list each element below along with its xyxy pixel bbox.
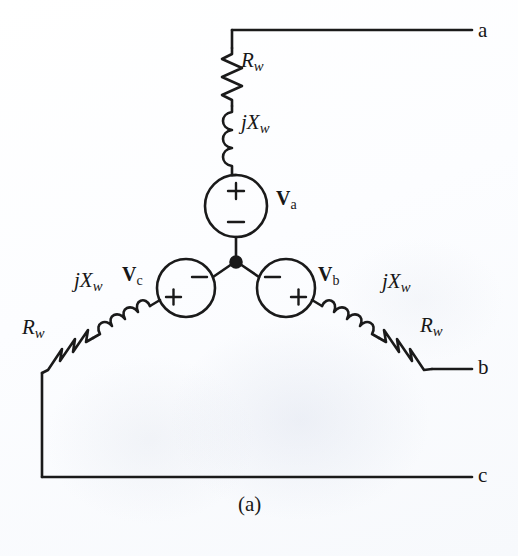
neutral-node-dot	[231, 257, 242, 268]
component-label-Rw-b: Rw	[420, 315, 443, 339]
component-label-jXw-b: jXw	[382, 271, 410, 295]
jXw-c-main: X	[80, 268, 93, 292]
resistor-Rw-a	[222, 48, 242, 106]
Va-main: V	[276, 187, 290, 209]
component-label-jXw-c: jXw	[74, 270, 102, 294]
component-label-Rw-c: Rw	[22, 317, 45, 341]
jXw-b-main: X	[388, 269, 401, 293]
component-label-Rw-a: Rw	[241, 50, 264, 74]
source-label-Vc: Vc	[122, 264, 143, 288]
Vc-main: V	[122, 263, 136, 285]
jXw-a-sub: w	[260, 120, 270, 136]
Va-sub: a	[290, 197, 296, 212]
Vb-main: V	[318, 263, 332, 285]
Rw-b-sub: w	[433, 323, 443, 339]
Rw-a-sub: w	[254, 58, 264, 74]
circuit-figure: a b c Rw jXw jXw Rw jXw Rw Va Vc Vb (a)	[0, 0, 518, 556]
Vb-sub: b	[332, 273, 339, 288]
jXw-b-sub: w	[401, 279, 411, 295]
wire-Vc-to-inductor	[150, 300, 160, 306]
Vc-sub: c	[136, 273, 142, 288]
terminal-label-c: c	[478, 465, 487, 486]
component-label-jXw-a: jXw	[241, 112, 269, 136]
figure-caption: (a)	[238, 494, 261, 515]
wire-node-to-Vc	[213, 264, 232, 277]
source-label-Va: Va	[276, 188, 297, 212]
inductor-jXw-a	[223, 106, 232, 175]
source-Vc-circle	[157, 259, 215, 317]
Rw-c-main: R	[22, 315, 35, 339]
Rw-c-sub: w	[35, 325, 45, 341]
wire-Vb-to-inductor	[312, 300, 322, 306]
inductor-jXw-b	[322, 300, 379, 338]
Rw-a-main: R	[241, 48, 254, 72]
source-label-Vb: Vb	[318, 264, 339, 288]
jXw-a-main: X	[247, 110, 260, 134]
terminal-label-a: a	[478, 20, 487, 41]
resistor-Rw-c	[42, 330, 93, 373]
Rw-b-main: R	[420, 313, 433, 337]
jXw-c-sub: w	[93, 278, 103, 294]
terminal-label-b: b	[478, 357, 489, 378]
source-Vb-circle	[257, 259, 315, 317]
inductor-jXw-c	[93, 300, 150, 338]
wire-node-to-Vb	[240, 264, 259, 277]
